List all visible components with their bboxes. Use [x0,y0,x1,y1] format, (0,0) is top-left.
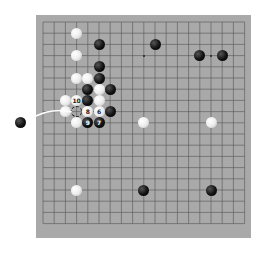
loose-black-stone[interactable] [15,117,26,128]
drag-trail [0,0,268,253]
